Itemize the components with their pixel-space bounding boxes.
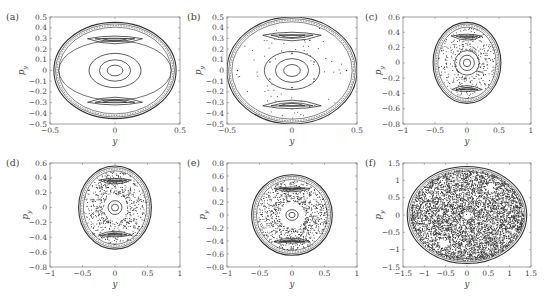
- orbit-point: [484, 251, 485, 252]
- orbit-point: [440, 237, 441, 238]
- orbit-point: [452, 70, 453, 71]
- orbit-point: [508, 222, 509, 223]
- orbit-point: [291, 195, 292, 196]
- orbit-point: [453, 242, 454, 243]
- orbit-point: [485, 84, 486, 85]
- y-tick-label: 0.4: [212, 23, 224, 32]
- orbit-point: [458, 242, 459, 243]
- orbit-point: [477, 226, 478, 227]
- orbit-point: [474, 32, 475, 33]
- orbit-point: [444, 177, 445, 178]
- orbit-point: [481, 179, 482, 180]
- orbit-point: [493, 176, 494, 177]
- orbit-point: [451, 92, 452, 93]
- orbit-point: [442, 229, 443, 230]
- orbit-point: [311, 215, 312, 216]
- orbit-point: [455, 242, 456, 243]
- y-tick-label: −0.2: [206, 87, 224, 96]
- orbit-point: [128, 223, 129, 224]
- orbit-point: [465, 229, 466, 230]
- plot-area: [79, 166, 152, 249]
- orbit-point: [492, 243, 493, 244]
- orbit-point: [458, 219, 459, 220]
- orbit-point: [275, 101, 276, 102]
- orbit-point: [449, 204, 450, 205]
- orbit-point: [449, 253, 450, 254]
- orbit-point: [472, 191, 473, 192]
- orbit-point: [510, 239, 511, 240]
- orbit-point: [490, 202, 491, 203]
- orbit-point: [440, 75, 441, 76]
- orbit-point: [520, 223, 521, 224]
- orbit-point: [424, 243, 425, 244]
- orbit-point: [499, 183, 500, 184]
- orbit-point: [436, 210, 437, 211]
- orbit-point: [471, 189, 472, 190]
- orbit-point: [291, 97, 292, 98]
- orbit-point: [461, 208, 462, 209]
- orbit-point: [276, 209, 277, 210]
- orbit-point: [459, 235, 460, 236]
- orbit-point: [431, 228, 432, 229]
- orbit-point: [302, 204, 303, 205]
- orbit-point: [445, 46, 446, 47]
- orbit-point: [294, 201, 295, 202]
- orbit-point: [493, 212, 494, 213]
- orbit-point: [287, 249, 288, 250]
- orbit-point: [318, 224, 319, 225]
- orbit-point: [489, 201, 490, 202]
- central-island: [99, 60, 130, 81]
- orbit-point: [494, 207, 495, 208]
- orbit-point: [263, 219, 264, 220]
- orbit-point: [275, 233, 276, 234]
- orbit-point: [420, 206, 421, 207]
- orbit-point: [264, 194, 265, 195]
- orbit-point: [481, 214, 482, 215]
- orbit-point: [477, 174, 478, 175]
- orbit-point: [495, 247, 496, 248]
- orbit-point: [481, 196, 482, 197]
- orbit-point: [472, 97, 473, 98]
- orbit-point: [488, 194, 489, 195]
- orbit-point: [309, 189, 310, 190]
- orbit-point: [102, 217, 103, 218]
- orbit-point: [481, 187, 482, 188]
- orbit-point: [432, 241, 433, 242]
- orbit-point: [469, 172, 470, 173]
- orbit-point: [467, 98, 468, 99]
- orbit-point: [458, 176, 459, 177]
- orbit-point: [279, 235, 280, 236]
- orbit-point: [447, 178, 448, 179]
- orbit-point: [470, 172, 471, 173]
- orbit-point: [504, 214, 505, 215]
- orbit-point: [512, 227, 513, 228]
- orbit-point: [316, 208, 317, 209]
- orbit-point: [509, 221, 510, 222]
- orbit-point: [508, 189, 509, 190]
- orbit-point: [471, 31, 472, 32]
- orbit-point: [512, 191, 513, 192]
- orbit-point: [472, 93, 473, 94]
- orbit-point: [418, 210, 419, 211]
- orbit-point: [453, 173, 454, 174]
- orbit-point: [442, 194, 443, 195]
- orbit-point: [456, 256, 457, 257]
- orbit-point: [471, 239, 472, 240]
- orbit-point: [457, 251, 458, 252]
- orbit-point: [108, 175, 109, 176]
- orbit-point: [456, 247, 457, 248]
- orbit-point: [283, 206, 284, 207]
- orbit-point: [476, 191, 477, 192]
- orbit-point: [484, 181, 485, 182]
- orbit-point: [106, 199, 107, 200]
- orbit-point: [485, 221, 486, 222]
- orbit-point: [448, 254, 449, 255]
- orbit-point: [439, 205, 440, 206]
- orbit-point: [313, 216, 314, 217]
- orbit-point: [133, 183, 134, 184]
- orbit-point: [509, 206, 510, 207]
- orbit-point: [462, 213, 463, 214]
- orbit-point: [516, 230, 517, 231]
- orbit-point: [464, 173, 465, 174]
- orbit-point: [448, 206, 449, 207]
